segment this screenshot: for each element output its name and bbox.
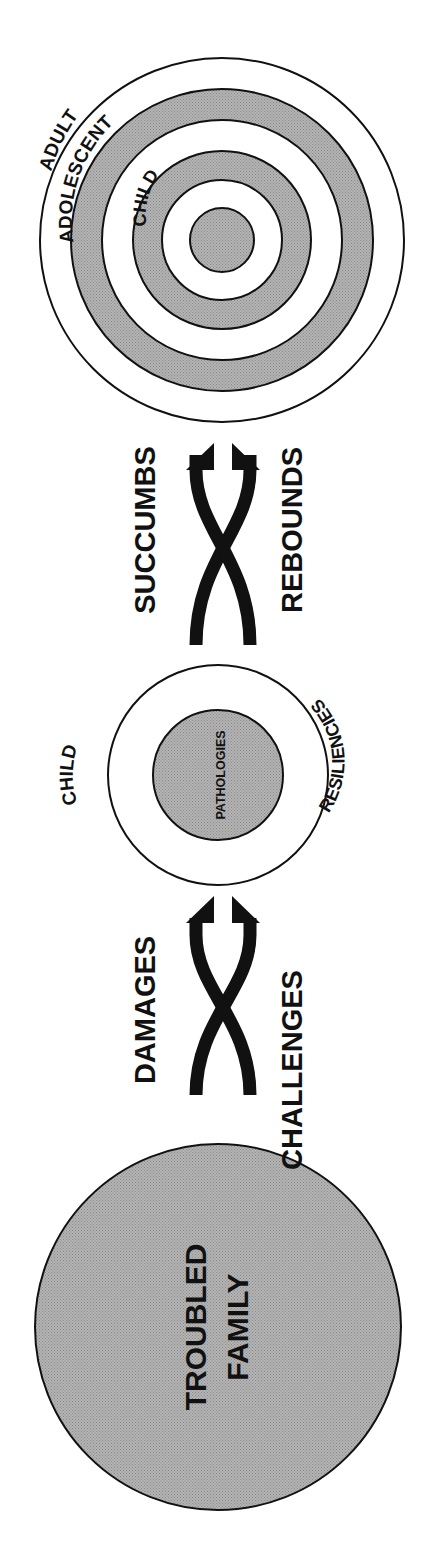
pathologies-label: PATHOLOGIES <box>214 730 228 819</box>
crossing-arrows-icon <box>196 918 250 1095</box>
development-target: ADULT ADOLESCENT CHILD <box>35 58 404 422</box>
arrowheads-icon <box>186 896 260 923</box>
damages-label: DAMAGES <box>129 936 161 1084</box>
first-transition: DAMAGES CHALLENGES <box>129 896 308 1170</box>
resilience-diagram: TROUBLED FAMILY DAMAGES CHALLENGES CHILD… <box>0 0 447 1546</box>
challenges-label: CHALLENGES <box>276 970 308 1170</box>
succumbs-label: SUCCUMBS <box>129 446 161 614</box>
second-transition: SUCCUMBS REBOUNDS <box>129 443 308 645</box>
rebounds-label: REBOUNDS <box>276 447 308 613</box>
troubled-label: TROUBLED <box>179 1244 212 1411</box>
child-stage-circle: CHILD PATHOLOGIES RESILIENCIES <box>56 665 349 885</box>
child-outer-label: CHILD <box>56 742 82 808</box>
troubled-family-circle: TROUBLED FAMILY <box>35 1144 401 1510</box>
crossing-arrows-icon <box>196 455 250 645</box>
family-label: FAMILY <box>221 1273 254 1380</box>
